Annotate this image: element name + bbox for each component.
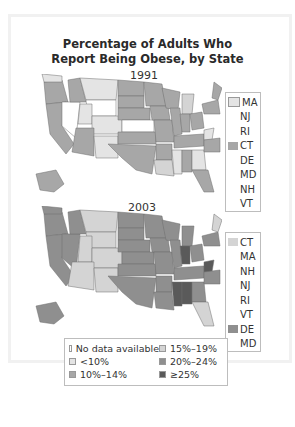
legend-row-vt: VT [228,308,258,323]
title-line-1: Percentage of Adults Who [0,37,295,52]
legend-row-ma: MA [228,250,258,265]
northeast-legend-2003: CT MA NH NJ RI VT DE MD [225,232,261,352]
legend-row-nh: NH [228,182,258,197]
us-map-2003 [32,206,222,331]
color-legend: No data available 15%–19% <10% 20%–24% 1… [64,338,228,386]
legend-row-md: MD [228,168,258,183]
legend-10-14: 10%–14% [69,368,159,381]
legend-row-de: DE [228,322,258,337]
legend-row-de: DE [228,153,258,168]
title-line-2: Report Being Obese, by State [0,52,295,67]
legend-20-24: 20%–24% [159,355,229,368]
legend-lt10: <10% [69,355,159,368]
legend-row-ma: MA [228,95,258,110]
legend-15-19: 15%–19% [159,342,229,355]
us-map-1991 [32,74,222,194]
legend-ge25: ≥25% [159,368,229,381]
legend-row-md: MD [228,337,258,352]
legend-row-vt: VT [228,197,258,212]
swatch-10-14 [228,142,238,150]
legend-row-nj: NJ [228,110,258,125]
swatch-lt10 [228,97,240,107]
legend-row-ct: CT [228,139,258,154]
legend-row-ri: RI [228,293,258,308]
chart-title: Percentage of Adults Who Report Being Ob… [0,37,295,67]
legend-row-nj: NJ [228,279,258,294]
legend-no-data: No data available [69,342,159,355]
swatch-15-19 [228,238,238,246]
northeast-legend-1991: MA NJ RI CT DE MD NH VT [225,92,261,212]
legend-row-nh: NH [228,264,258,279]
legend-row-ct: CT [228,235,258,250]
legend-row-ri: RI [228,124,258,139]
swatch-20-24 [228,325,238,333]
